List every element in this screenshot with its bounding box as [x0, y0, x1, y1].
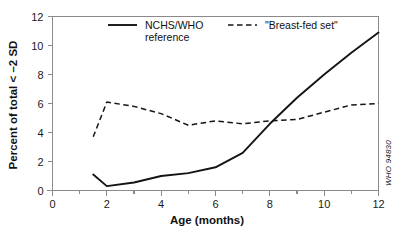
legend-label-nchs-who-line1: NCHS/WHO	[145, 19, 203, 31]
y-tick-label: 4	[37, 127, 43, 139]
x-axis-title: Age (months)	[170, 214, 244, 226]
legend: NCHS/WHO reference "Breast-fed set"	[108, 19, 338, 43]
x-tick-label: 10	[318, 198, 330, 210]
x-tick-label: 8	[267, 198, 273, 210]
y-tick-label-group: 024681012	[31, 11, 43, 197]
axes-group	[47, 17, 379, 191]
x-tick-label: 0	[49, 198, 55, 210]
y-axis-title: Percent of total < –2 SD	[7, 41, 19, 170]
y-tick-label: 6	[37, 98, 43, 110]
y-tick-label: 2	[37, 156, 43, 168]
x-tick-label: 12	[372, 198, 384, 210]
y-tick-group	[48, 17, 53, 191]
legend-label-breast-fed-set: "Breast-fed set"	[265, 19, 338, 31]
x-tick-label: 6	[212, 198, 218, 210]
line-chart: 024681012 024681012 Age (months) Percent…	[0, 0, 409, 230]
series-group	[93, 32, 378, 186]
chart-figure: 024681012 024681012 Age (months) Percent…	[0, 0, 409, 230]
x-tick-label: 4	[158, 198, 164, 210]
x-tick-label: 2	[104, 198, 110, 210]
x-tick-label-group: 024681012	[49, 198, 384, 210]
y-tick-label: 12	[31, 11, 43, 23]
legend-label-nchs-who-line2: reference	[145, 31, 190, 43]
y-tick-label: 10	[31, 40, 43, 52]
y-tick-label: 8	[37, 69, 43, 81]
x-tick-group	[53, 191, 379, 196]
y-tick-label: 0	[37, 185, 43, 197]
series-breast-fed-set-line	[93, 102, 378, 137]
who-credit-text: WHO 94830	[384, 140, 393, 186]
